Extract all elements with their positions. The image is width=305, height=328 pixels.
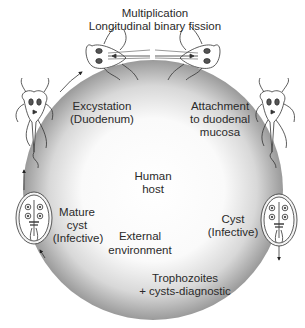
human-label: Human xyxy=(123,170,183,183)
trophozoites-label: Trophozoites xyxy=(140,272,230,285)
excystation-label: Excystation xyxy=(62,100,142,113)
binary-fission-label: Longitudinal binary fission xyxy=(80,20,230,33)
mature-label: Mature xyxy=(52,206,102,219)
attachment-label: Attachment xyxy=(180,100,260,113)
mature-infective-label: (Infective) xyxy=(50,232,106,245)
mucosa-label: mucosa xyxy=(180,126,260,139)
cyst-infective-label: (Infective) xyxy=(203,226,263,239)
mature-cyst-word-label: cyst xyxy=(52,219,102,232)
cysts-diagnostic-label: + cysts-diagnostic xyxy=(130,285,240,298)
environment-label: environment xyxy=(105,244,175,257)
life-cycle-diagram: Multiplication Longitudinal binary fissi… xyxy=(0,0,305,328)
external-label: External xyxy=(105,230,175,243)
mature-cyst-icon xyxy=(16,192,52,244)
duodenum-label: (Duodenum) xyxy=(62,113,142,126)
duodenal-label: to duodenal xyxy=(180,113,260,126)
cyst-icon xyxy=(261,194,297,246)
cyst-label: Cyst xyxy=(205,213,261,226)
multiplication-label: Multiplication xyxy=(105,7,205,20)
host-label: host xyxy=(123,183,183,196)
